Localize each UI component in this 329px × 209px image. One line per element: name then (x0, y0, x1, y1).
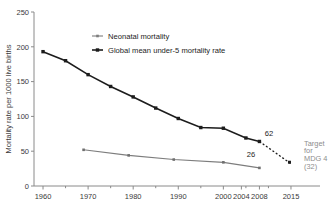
y-axis-ticks: 050100150200250 (16, 8, 34, 191)
chart-legend: Neonatal mortalityGlobal mean under-5 mo… (92, 32, 225, 55)
x-tick-label: 2015 (283, 192, 300, 201)
data-point-marker (222, 127, 225, 130)
legend-label: Global mean under-5 mortality rate (108, 46, 225, 55)
data-point-marker (244, 136, 247, 139)
data-point-marker (131, 95, 134, 98)
data-point-marker (258, 140, 261, 143)
data-point-marker (82, 149, 85, 152)
data-point-marker (172, 158, 175, 161)
series-line (84, 150, 260, 168)
x-tick-label: 2008 (251, 192, 268, 201)
legend-swatch-marker (96, 48, 99, 51)
y-tick-label: 250 (16, 8, 29, 17)
chart-canvas: 050100150200250 196019701980199020002004… (0, 0, 329, 209)
data-point-marker (177, 117, 180, 120)
data-point-marker (41, 50, 44, 53)
x-tick-label: 2004 (233, 192, 250, 201)
legend-swatch-marker (96, 35, 99, 38)
y-tick-label: 0 (25, 182, 29, 191)
x-tick-label: 1960 (35, 192, 52, 201)
data-point-marker (258, 167, 261, 170)
annotation-neonatal-2008: 26 (247, 150, 255, 159)
x-tick-label: 1970 (80, 192, 97, 201)
series-line (43, 52, 259, 142)
x-tick-label: 1980 (125, 192, 142, 201)
target-point-marker (288, 161, 291, 164)
x-tick-label: 1990 (170, 192, 187, 201)
x-axis-ticks: 19601970198019902000200420082015 (35, 186, 300, 201)
data-point-marker (64, 59, 67, 62)
data-point-marker (222, 161, 225, 164)
annotation-u5mr-2008: 62 (265, 129, 273, 138)
y-axis-title: Mortality rate per 1000 live births (4, 44, 13, 153)
series-line (259, 141, 291, 163)
data-point-marker (154, 106, 157, 109)
legend-label: Neonatal mortality (108, 32, 169, 41)
y-tick-label: 200 (16, 43, 29, 52)
y-axis-label: Mortality rate per 1000 live births (4, 44, 13, 153)
x-tick-label: 2000 (215, 192, 232, 201)
data-point-marker (199, 126, 202, 129)
target-note-line4: (32) (304, 162, 317, 171)
y-tick-label: 100 (16, 112, 29, 121)
data-point-marker (109, 85, 112, 88)
mortality-line-chart: 050100150200250 196019701980199020002004… (0, 0, 329, 209)
y-tick-label: 50 (21, 147, 29, 156)
y-tick-label: 150 (16, 77, 29, 86)
data-point-marker (127, 154, 130, 157)
data-point-marker (86, 73, 89, 76)
chart-annotations: 6226TargetforMDG 4(32) (247, 129, 328, 171)
